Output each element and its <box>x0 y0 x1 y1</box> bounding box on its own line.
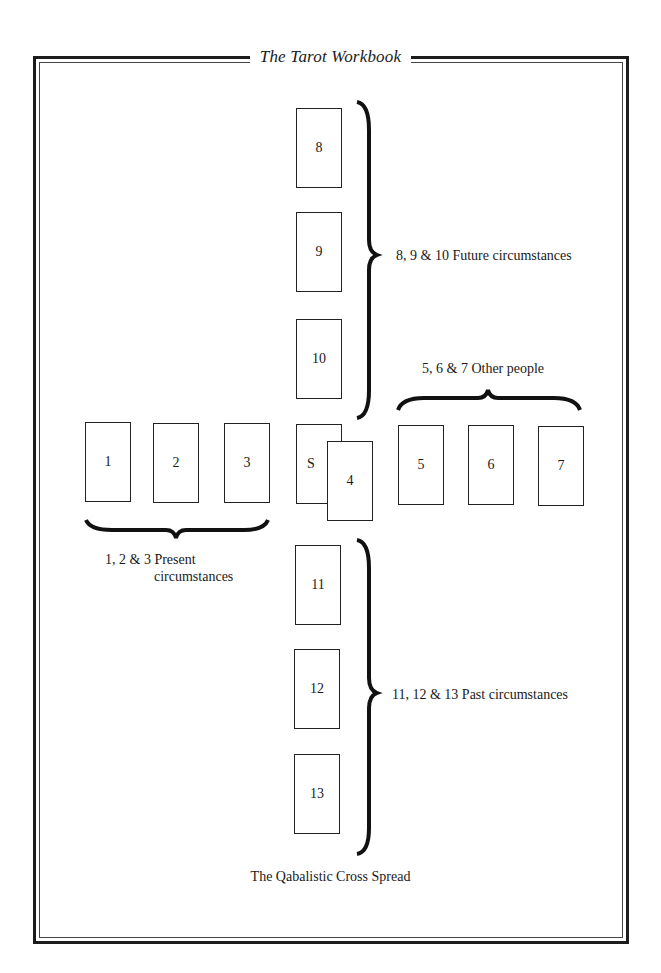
present-label-line1: 1, 2 & 3 Present <box>105 552 196 568</box>
card-5: 5 <box>398 425 444 505</box>
card-1: 1 <box>85 422 131 502</box>
figure-caption: The Qabalistic Cross Spread <box>0 869 661 885</box>
other-people-brace-icon <box>396 388 582 414</box>
present-label-line2: circumstances <box>154 569 233 585</box>
future-label: 8, 9 & 10 Future circumstances <box>396 248 572 264</box>
other-people-label: 5, 6 & 7 Other people <box>422 361 544 377</box>
card-6: 6 <box>468 425 514 505</box>
card-4: 4 <box>327 441 373 521</box>
past-label: 11, 12 & 13 Past circumstances <box>392 687 568 703</box>
present-brace-icon <box>84 518 270 542</box>
card-11: 11 <box>295 545 341 625</box>
future-brace-icon <box>355 100 385 420</box>
past-brace-icon <box>355 538 385 856</box>
running-header: The Tarot Workbook <box>0 47 661 67</box>
card-2: 2 <box>153 423 199 503</box>
card-9: 9 <box>296 212 342 292</box>
card-13: 13 <box>294 754 340 834</box>
card-8: 8 <box>296 108 342 188</box>
card-3: 3 <box>224 423 270 503</box>
card-12: 12 <box>294 649 340 729</box>
card-7: 7 <box>538 426 584 506</box>
book-title: The Tarot Workbook <box>250 47 412 66</box>
card-10: 10 <box>296 319 342 399</box>
